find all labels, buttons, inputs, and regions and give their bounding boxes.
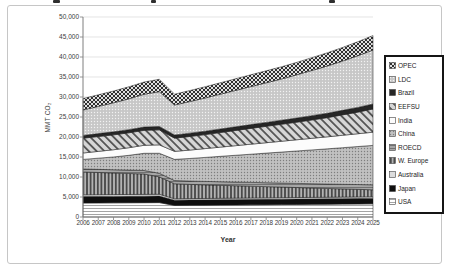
legend-label: India <box>398 117 412 124</box>
legend-label: China <box>398 130 415 137</box>
legend-item-ldc: LDC <box>389 73 442 87</box>
legend-label: W. Europe <box>398 157 428 164</box>
x-tick-label: 2025 <box>362 219 384 227</box>
y-tick-label: 50,000 <box>44 13 79 21</box>
y-tick-label: 25,000 <box>44 113 79 121</box>
legend-item-w-europe: W. Europe <box>389 154 442 168</box>
legend-label: Australia <box>398 171 423 178</box>
legend-label: Brazil <box>398 89 414 96</box>
legend-item-china: China <box>389 127 442 141</box>
legend-item-india: India <box>389 113 442 127</box>
y-tick-label: 35,000 <box>44 73 79 81</box>
legend-item-roecd: ROECD <box>389 141 442 155</box>
y-tick-label: 15,000 <box>44 153 79 161</box>
legend-item-eefsu: EEFSU <box>389 100 442 114</box>
legend-swatch-icon <box>389 157 396 164</box>
y-tick-label: 20,000 <box>44 133 79 141</box>
legend-swatch-icon <box>389 198 396 205</box>
legend-box: OPECLDCBrazilEEFSUIndiaChinaROECDW. Euro… <box>384 55 444 214</box>
legend-item-usa: USA <box>389 195 442 209</box>
legend-swatch-icon <box>389 185 396 192</box>
y-tick-label: 10,000 <box>44 173 79 181</box>
y-tick-label: 5,000 <box>44 193 79 201</box>
y-tick-label: 40,000 <box>44 53 79 61</box>
legend-swatch-icon <box>389 171 396 178</box>
legend-item-opec: OPEC <box>389 59 442 73</box>
legend-swatch-icon <box>389 144 396 151</box>
legend-swatch-icon <box>389 62 396 69</box>
cropped-title-fragment <box>53 0 60 3</box>
legend-swatch-icon <box>389 130 396 137</box>
legend-swatch-icon <box>389 117 396 124</box>
legend-label: ROECD <box>398 144 421 151</box>
cropped-title-fragment <box>329 0 335 3</box>
legend-label: EEFSU <box>398 103 420 110</box>
legend-swatch-icon <box>389 89 396 96</box>
legend-label: Japan <box>398 185 416 192</box>
legend-label: LDC <box>398 76 411 83</box>
chart-screenshot: MMT CO₂ 05,00010,00015,00020,00025,00030… <box>0 0 449 268</box>
legend-item-australia: Australia <box>389 168 442 182</box>
legend-item-japan: Japan <box>389 181 442 195</box>
legend-label: USA <box>398 198 411 205</box>
legend-swatch-icon <box>389 103 396 110</box>
plot-area <box>78 12 378 225</box>
legend-label: OPEC <box>398 62 416 69</box>
y-tick-label: 45,000 <box>44 33 79 41</box>
cropped-title-fragment <box>151 0 156 3</box>
y-tick-label: 30,000 <box>44 93 79 101</box>
legend-item-brazil: Brazil <box>389 86 442 100</box>
legend-swatch-icon <box>389 76 396 83</box>
x-axis-title: Year <box>188 236 268 245</box>
